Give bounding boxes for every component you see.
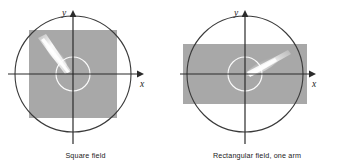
y-axis-arrow-icon bbox=[242, 10, 249, 17]
figure-pair: y x Square field bbox=[0, 0, 343, 161]
figure-rectangular-field: y x Rectangular field, one arm bbox=[171, 0, 343, 161]
x-axis-arrow-icon bbox=[137, 71, 144, 78]
figure-caption-square-field: Square field bbox=[0, 151, 171, 160]
y-axis-label: y bbox=[233, 8, 239, 18]
x-axis-label: x bbox=[311, 79, 317, 89]
y-axis-arrow-icon bbox=[70, 10, 77, 17]
x-axis-arrow-icon bbox=[309, 71, 316, 78]
square-field-diagram: y x bbox=[0, 0, 171, 161]
rectangular-field-diagram: y x bbox=[171, 0, 343, 161]
figure-caption-rectangular-field: Rectangular field, one arm bbox=[171, 151, 343, 160]
figure-square-field: y x Square field bbox=[0, 0, 171, 161]
x-axis-label: x bbox=[139, 79, 145, 89]
y-axis-label: y bbox=[61, 8, 67, 18]
